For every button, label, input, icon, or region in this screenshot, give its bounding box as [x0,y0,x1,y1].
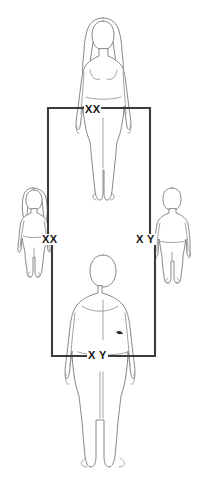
son-head [163,188,181,210]
figure-father [65,255,135,467]
mother-head [92,21,114,50]
mother-body [76,49,131,200]
son-body [155,209,190,283]
diagram-canvas [0,0,207,491]
daughter-head [26,190,42,210]
father-head [90,255,116,287]
figure-son [155,188,191,283]
father-foot-right [119,458,125,467]
chromosome-inheritance-diagram: XX X Y XX X Y [0,0,207,491]
karyotype-label-mother: XX [84,104,101,115]
karyotype-label-daughter: XX [41,234,58,245]
karyotype-label-father: X Y [87,350,108,361]
karyotype-label-son: X Y [135,234,156,245]
